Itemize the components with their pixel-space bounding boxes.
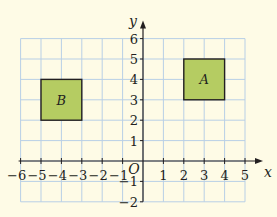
- y-tick-label: 1: [130, 134, 138, 149]
- shape-label-a: A: [199, 72, 209, 87]
- y-tick-label: 6: [130, 32, 138, 47]
- y-tick-label: −2: [119, 195, 138, 210]
- x-axis-arrow-icon: [255, 158, 263, 164]
- origin-label: O: [128, 161, 140, 177]
- x-tick-label: 3: [200, 168, 208, 183]
- x-axis-label: x: [264, 164, 272, 180]
- x-tick-label: −3: [68, 168, 87, 183]
- x-tick-label: 5: [241, 168, 249, 183]
- y-axis-arrow-icon: [140, 21, 146, 29]
- x-tick-label: −2: [89, 168, 108, 183]
- y-tick-label: 2: [130, 113, 138, 128]
- coordinate-grid: AB−6−5−4−3−2−112345−2−1123456Oxy: [0, 0, 277, 217]
- x-tick-label: −5: [27, 168, 46, 183]
- y-tick-label: 3: [130, 93, 138, 108]
- x-tick-label: 1: [159, 168, 167, 183]
- y-axis-label: y: [128, 13, 138, 29]
- x-tick-label: 4: [220, 168, 228, 183]
- x-tick-label: −4: [48, 168, 67, 183]
- x-tick-label: −6: [7, 168, 26, 183]
- shape-label-b: B: [56, 93, 67, 108]
- x-tick-label: 2: [180, 168, 188, 183]
- y-tick-label: 5: [130, 52, 138, 67]
- y-tick-label: 4: [130, 72, 138, 87]
